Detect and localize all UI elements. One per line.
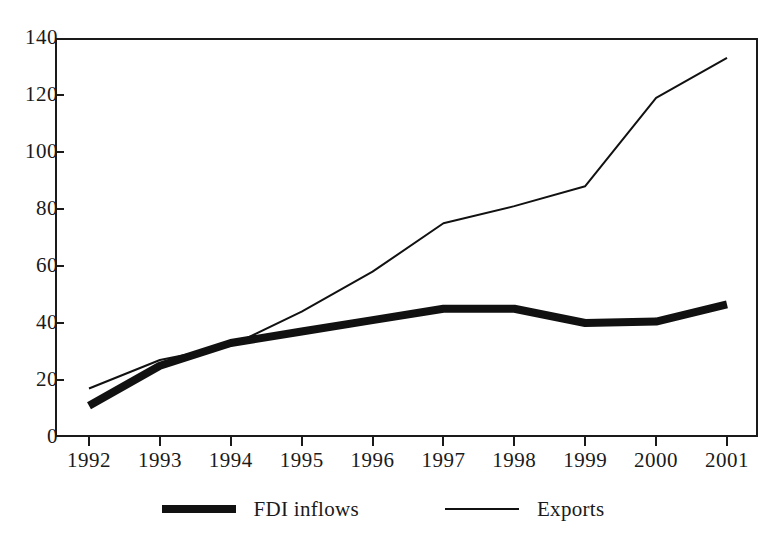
- x-tick-label: 1996: [351, 450, 395, 471]
- y-tick-label: 100: [25, 141, 58, 162]
- x-tick-mark: [584, 437, 586, 446]
- chart-title: [0, 0, 766, 1]
- x-tick-mark: [88, 437, 90, 446]
- x-tick-label: 1992: [67, 450, 111, 471]
- y-tick-label: 120: [25, 84, 58, 105]
- x-tick-mark: [230, 437, 232, 446]
- thin-line-swatch: [445, 508, 519, 510]
- x-tick-mark: [372, 437, 374, 446]
- x-tick-label: 1995: [280, 450, 324, 471]
- legend-item-fdi-inflows: FDI inflows: [162, 499, 359, 520]
- x-tick-label: 1998: [492, 450, 536, 471]
- data-series-layer: [55, 38, 758, 437]
- legend-label-exports: Exports: [537, 499, 604, 520]
- y-tick-label: 140: [25, 27, 58, 48]
- x-tick-label: 2000: [634, 450, 678, 471]
- x-tick-mark: [655, 437, 657, 446]
- thick-line-swatch: [162, 505, 236, 513]
- x-tick-label: 1997: [421, 450, 465, 471]
- x-tick-mark: [442, 437, 444, 446]
- series-line-exports: [89, 58, 727, 389]
- legend-item-exports: Exports: [445, 499, 604, 520]
- x-tick-mark: [159, 437, 161, 446]
- x-tick-label: 1994: [209, 450, 253, 471]
- x-tick-label: 1999: [563, 450, 607, 471]
- x-tick-mark: [726, 437, 728, 446]
- x-tick-mark: [301, 437, 303, 446]
- x-tick-label: 2001: [705, 450, 749, 471]
- chart-legend: FDI inflows Exports: [0, 492, 766, 526]
- x-tick-mark: [513, 437, 515, 446]
- line-chart: 020406080100120140 199219931994199519961…: [0, 0, 766, 534]
- x-tick-label: 1993: [138, 450, 182, 471]
- legend-label-fdi-inflows: FDI inflows: [254, 499, 359, 520]
